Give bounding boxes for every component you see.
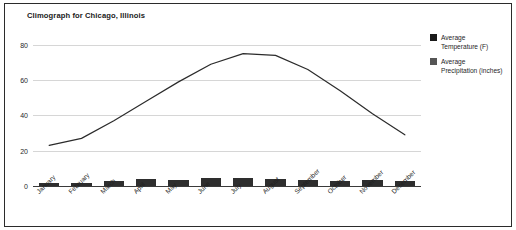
legend-swatch-icon [430, 58, 437, 65]
plot-area: 020406080 JanuaryFebruaryMarchAprilMayJu… [33, 36, 421, 186]
temperature-line [49, 54, 405, 146]
climograph-screenshot: Climograph for Chicago, Illinois 0204060… [0, 0, 516, 230]
temperature-line-svg [33, 36, 421, 186]
chart-legend: Average Temperature (F)Average Precipita… [430, 33, 508, 81]
chart-title: Climograph for Chicago, Illinois [27, 11, 145, 20]
y-axis-tick-label: 40 [20, 112, 28, 119]
legend-label: Average Temperature (F) [441, 33, 503, 51]
legend-item: Average Precipitation (inches) [430, 57, 508, 75]
y-axis-tick-label: 0 [24, 183, 28, 190]
legend-label: Average Precipitation (inches) [441, 57, 503, 75]
legend-item: Average Temperature (F) [430, 33, 508, 51]
y-axis-tick-label: 60 [20, 77, 28, 84]
legend-swatch-icon [430, 34, 437, 41]
y-axis-tick-label: 20 [20, 147, 28, 154]
y-axis-tick-label: 80 [20, 41, 28, 48]
